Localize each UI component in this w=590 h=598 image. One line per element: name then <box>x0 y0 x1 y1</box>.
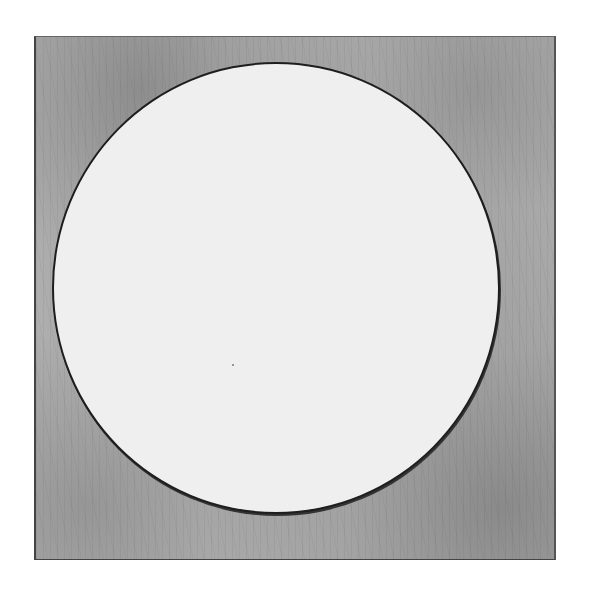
white-circle <box>52 62 500 514</box>
ink-speck <box>232 364 234 366</box>
